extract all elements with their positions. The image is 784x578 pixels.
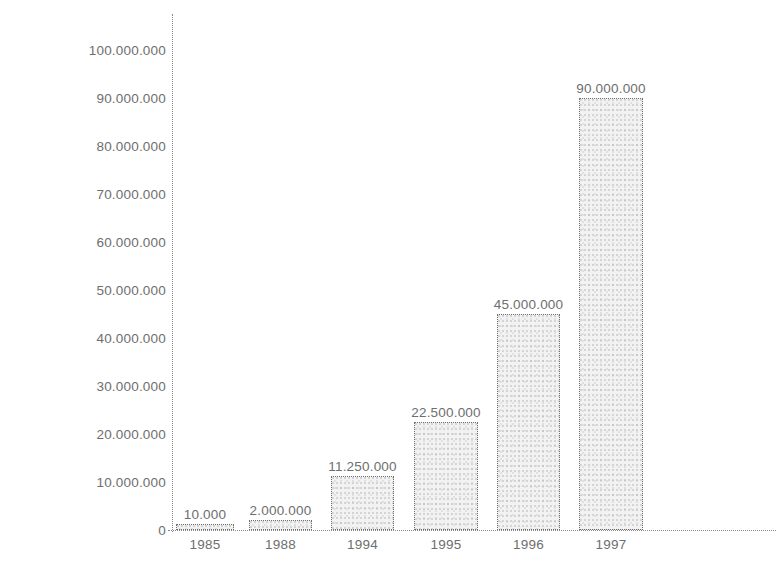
bar-value-label: 45.000.000 — [494, 297, 564, 312]
bar-value-label: 22.500.000 — [411, 405, 481, 420]
plot-area: 10.00019852.000.000198811.250.000199422.… — [0, 0, 784, 578]
x-axis-tick-label: 1985 — [189, 537, 220, 552]
bar-value-label: 2.000.000 — [250, 503, 312, 518]
bar-value-label: 90.000.000 — [576, 81, 646, 96]
bar-value-label: 10.000 — [184, 507, 227, 522]
bar — [497, 314, 560, 530]
x-axis-tick-label: 1988 — [265, 537, 296, 552]
bar — [579, 98, 643, 530]
bar — [249, 520, 312, 530]
bar — [176, 524, 234, 530]
x-axis-tick-label: 1997 — [595, 537, 626, 552]
x-axis-tick-label: 1994 — [347, 537, 378, 552]
x-axis-tick-label: 1995 — [430, 537, 461, 552]
x-axis-tick-label: 1996 — [513, 537, 544, 552]
bar — [414, 422, 478, 530]
bar-value-label: 11.250.000 — [328, 459, 397, 474]
bar-chart: Benutzer 010.000.00020.000.00030.000.000… — [0, 0, 784, 578]
bar — [331, 476, 394, 530]
